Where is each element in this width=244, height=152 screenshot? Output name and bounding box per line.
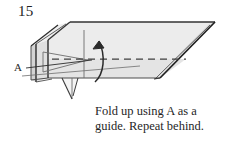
- point-label-a: A: [14, 62, 22, 73]
- caption-line-1: Fold up using A as a: [95, 104, 241, 119]
- step-number: 15: [18, 4, 34, 19]
- caption-line-2: guide. Repeat behind.: [95, 119, 241, 134]
- paper-left-layer-inner: [31, 44, 36, 82]
- origami-step-diagram: 15 A Fold up using A as a guide. Repeat …: [0, 0, 244, 152]
- caption: Fold up using A as a guide. Repeat behin…: [95, 104, 241, 133]
- paper-left-layer-outer: [36, 40, 48, 82]
